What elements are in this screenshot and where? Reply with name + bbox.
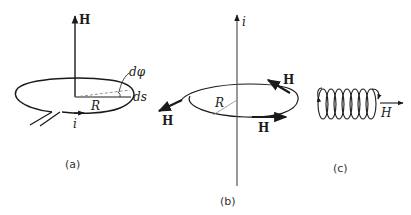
field-loop-front [189, 96, 298, 117]
angle-arc [118, 92, 120, 97]
panel-c: H (c) [318, 88, 403, 175]
caption-c: (c) [333, 162, 348, 175]
current-label-a: i [73, 117, 77, 131]
i-axis-label-text: i [242, 15, 246, 29]
caption-b: (b) [220, 195, 236, 208]
dphi-label: dφ [129, 65, 146, 79]
lead-wire-2 [40, 112, 60, 126]
helix-coil [318, 89, 376, 119]
radius-label-b: R [214, 96, 224, 110]
h-axis-label: H [79, 13, 90, 27]
h-label-c: H [380, 106, 392, 120]
caption-a: (a) [65, 158, 80, 171]
radius-label-a: R [90, 99, 100, 113]
panel-a: H dφ ds R i (a) [15, 13, 146, 171]
lead-wire-1 [30, 112, 52, 125]
h-label-right-top: H [283, 73, 294, 87]
h-label-right-bottom: H [258, 121, 269, 135]
panel-b: i R H H H (b) [159, 15, 298, 208]
h-label-left: H [162, 114, 173, 128]
figure-canvas: H dφ ds R i (a) i R H H H (b) [0, 0, 411, 215]
dashed-radius [75, 90, 130, 97]
ds-label: ds [133, 90, 147, 104]
h-arrow-left [159, 100, 182, 111]
